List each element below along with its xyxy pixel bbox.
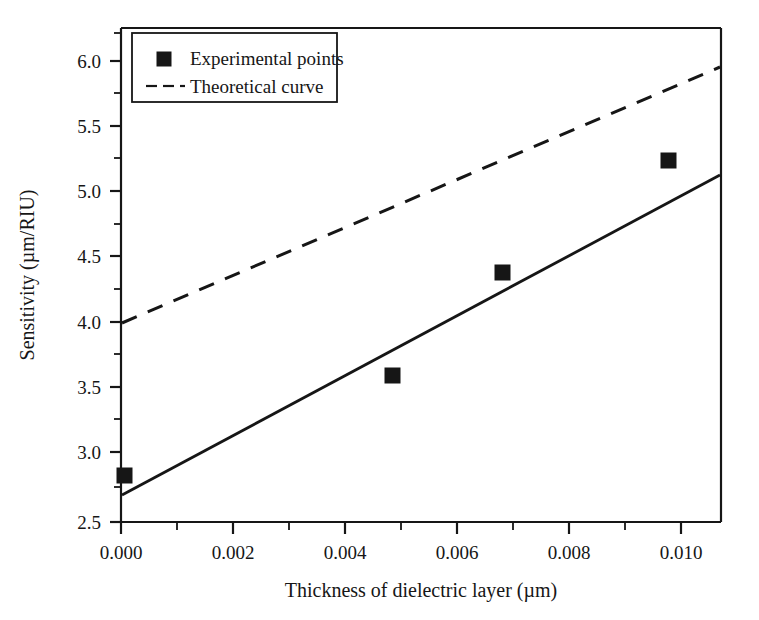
x-tick-label: 0.004 [324,542,367,563]
data-point-marker [661,153,676,168]
chart-figure: 2.5 3.0 3.5 4.0 4.5 5.0 5.5 6.0 0.000 0.… [0,0,759,620]
y-tick-label: 5.5 [77,116,101,137]
x-tick-label: 0.006 [436,542,479,563]
x-tick-label: 0.008 [548,542,591,563]
y-tick-label: 3.5 [77,377,101,398]
experimental-fit-line [122,175,720,495]
y-tick-label: 4.0 [77,312,101,333]
y-axis-tick-labels: 2.5 3.0 3.5 4.0 4.5 5.0 5.5 6.0 [77,51,101,533]
x-axis-title: Thickness of dielectric layer (µm) [285,579,558,602]
legend-item-label: Theoretical curve [190,76,323,97]
data-point-marker [495,265,510,280]
theoretical-curve-line [122,67,720,323]
x-tick-label: 0.000 [100,542,143,563]
y-tick-label: 5.0 [77,181,101,202]
x-axis-tick-labels: 0.000 0.002 0.004 0.006 0.008 0.010 [100,542,703,563]
x-tick-label: 0.010 [660,542,703,563]
data-point-marker [117,468,132,483]
x-axis-minor-ticks [177,522,625,530]
data-point-marker [385,368,400,383]
y-tick-label: 4.5 [77,246,101,267]
y-axis-title: Sensitivity (µm/RIU) [16,190,39,361]
y-axis-major-ticks [110,61,121,522]
legend-square-marker-icon [157,52,171,66]
x-tick-label: 0.002 [212,542,255,563]
experimental-points-markers [117,153,676,483]
y-tick-label: 3.0 [77,442,101,463]
y-tick-label: 2.5 [77,512,101,533]
y-tick-label: 6.0 [77,51,101,72]
chart-legend: Experimental points Theoretical curve [132,33,344,102]
legend-item-label: Experimental points [190,48,344,69]
